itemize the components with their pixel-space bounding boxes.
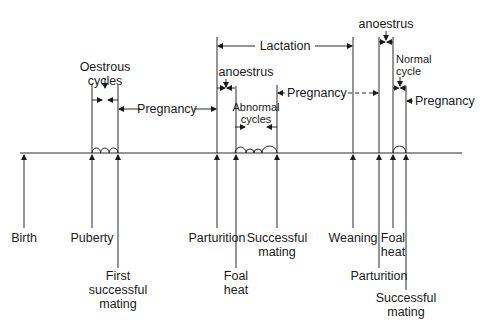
- period-label: Pregnancy: [287, 86, 348, 100]
- event-label: Puberty: [70, 231, 114, 245]
- period-label: Pregnancy: [415, 94, 476, 108]
- event-label: Successfulmating: [247, 231, 307, 259]
- oestrous-cycles-bumps: [92, 148, 118, 153]
- period-label: Normalcycle: [396, 53, 431, 77]
- event-label: Foalheat: [224, 269, 249, 297]
- event-label: Parturition: [351, 269, 408, 283]
- event-label: Parturition: [189, 231, 246, 245]
- event-label-line: Successful: [376, 291, 436, 305]
- normal-cycle-bump: [393, 146, 406, 153]
- event-label: Birth: [11, 231, 37, 245]
- period-label-line: cycles: [241, 113, 272, 125]
- event-label-line: Parturition: [189, 231, 246, 245]
- event-label-line: Weaning: [328, 231, 377, 245]
- period-label-line: anoestrus: [359, 17, 414, 31]
- period-label-line: Pregnancy: [415, 94, 476, 108]
- event-label-line: mating: [258, 245, 296, 259]
- event-label-line: Foal: [381, 231, 405, 245]
- period-label: anoestrus: [359, 17, 414, 31]
- period-label-line: Pregnancy: [137, 102, 198, 116]
- event-label-line: Puberty: [70, 231, 114, 245]
- event-label-line: successful: [89, 283, 147, 297]
- event-label: Foalheat: [381, 231, 406, 259]
- event-label-line: Successful: [247, 231, 307, 245]
- event-label-line: Birth: [11, 231, 37, 245]
- period-label: Oestrouscycles: [80, 60, 131, 88]
- event-label-line: heat: [224, 283, 249, 297]
- period-normal-cycle: [393, 77, 406, 88]
- period-label-line: Normal: [396, 53, 431, 65]
- period-label: anoestrus: [219, 65, 274, 79]
- event-label-line: First: [106, 269, 131, 283]
- event-label-line: heat: [381, 245, 406, 259]
- event-label: Weaning: [328, 231, 377, 245]
- event-label-line: Parturition: [351, 269, 408, 283]
- diagram-canvas: BirthPubertyFirstsuccessfulmatingParturi…: [0, 0, 484, 324]
- event-label-line: mating: [99, 297, 137, 311]
- reproductive-timeline-diagram: BirthPubertyFirstsuccessfulmatingParturi…: [0, 0, 484, 324]
- event-label: Successfulmating: [376, 291, 436, 319]
- period-label: Abnormalcycles: [232, 101, 279, 125]
- period-label-line: cycle: [396, 65, 421, 77]
- period-label-line: anoestrus: [219, 65, 274, 79]
- period-label: Lactation: [260, 39, 311, 53]
- period-label-line: Pregnancy: [287, 86, 348, 100]
- period-label-line: cycles: [88, 74, 123, 88]
- period-label-line: Oestrous: [80, 60, 131, 74]
- period-label-line: Abnormal: [232, 101, 279, 113]
- event-label: Firstsuccessfulmating: [89, 269, 147, 311]
- event-label-line: mating: [387, 305, 425, 319]
- period-label-line: Lactation: [260, 39, 311, 53]
- abnormal-cycles-bumps: [235, 146, 277, 153]
- period-anoestrus-1: [217, 79, 235, 88]
- period-anoestrus-2: [379, 31, 393, 42]
- period-label: Pregnancy: [137, 102, 198, 116]
- event-lines: [24, 37, 406, 290]
- event-label-line: Foal: [224, 269, 248, 283]
